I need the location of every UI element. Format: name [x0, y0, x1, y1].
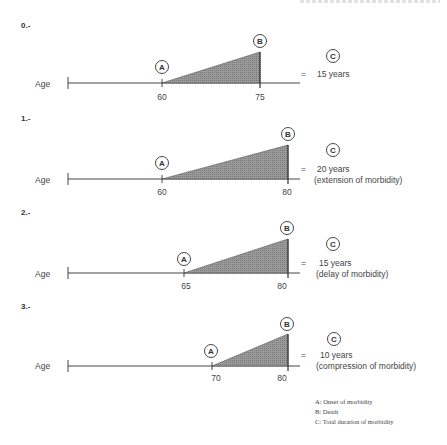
morbidity-triangle: [162, 145, 288, 179]
circle-c-badge: C: [327, 50, 340, 63]
onset-age-label: 70: [211, 373, 221, 383]
result-duration: 10 years: [320, 350, 353, 360]
result-description: (extension of morbidity): [314, 175, 403, 185]
onset-age-label: 60: [157, 187, 167, 197]
circle-b-badge: B: [281, 318, 294, 331]
svg-text:C: C: [330, 52, 336, 61]
svg-text:C: C: [330, 240, 336, 249]
svg-text:B: B: [257, 37, 263, 46]
section-heading: 2.-: [21, 208, 31, 217]
equals-sign: =: [301, 164, 306, 174]
legend: A: Onset of morbidity B: Death C: Total …: [315, 398, 394, 425]
svg-text:B: B: [284, 320, 290, 329]
svg-text:C: C: [331, 335, 337, 344]
circle-b-badge: B: [282, 128, 295, 141]
morbidity-diagram: 0.- Age 60 75 A B C = 15 years 1.- Age: [0, 0, 447, 445]
svg-text:A: A: [208, 347, 214, 356]
circle-b-badge: B: [281, 222, 294, 235]
section-heading: 0.-: [21, 21, 31, 30]
svg-text:A: A: [159, 63, 165, 72]
morbidity-triangle: [212, 334, 288, 366]
svg-text:A: A: [181, 255, 187, 264]
legend-item-c: C: Total duration of morbidity: [315, 418, 394, 425]
death-age-label: 80: [282, 187, 292, 197]
svg-text:A: A: [159, 159, 165, 168]
circle-c-badge: C: [328, 333, 341, 346]
scenario-1: 1.- Age 60 80 A B C = 20 years (extensio…: [21, 114, 403, 197]
death-age-label: 80: [277, 281, 287, 291]
age-axis-label: Age: [35, 175, 50, 185]
legend-item-a: A: Onset of morbidity: [315, 398, 373, 405]
age-axis-label: Age: [35, 269, 50, 279]
onset-age-label: 65: [181, 281, 191, 291]
result-duration: 15 years: [317, 69, 350, 79]
legend-item-b: B: Death: [315, 408, 339, 415]
circle-a-badge: A: [205, 345, 218, 358]
svg-text:B: B: [284, 224, 290, 233]
circle-a-badge: A: [178, 253, 191, 266]
result-duration: 20 years: [317, 164, 350, 174]
morbidity-triangle: [162, 52, 260, 83]
scenario-2: 2.- Age 65 80 A B C = 15 years (delay of…: [21, 208, 388, 291]
equals-sign: =: [301, 350, 306, 360]
circle-a-badge: A: [156, 61, 169, 74]
svg-text:B: B: [285, 130, 291, 139]
result-description: (compression of morbidity): [316, 361, 416, 371]
circle-b-badge: B: [254, 35, 267, 48]
circle-c-badge: C: [327, 144, 340, 157]
scenario-3: 3.- Age 70 80 A B C = 10 years (compress…: [21, 302, 416, 383]
scenario-0: 0.- Age 60 75 A B C = 15 years: [21, 21, 350, 102]
section-heading: 3.-: [21, 302, 31, 311]
result-duration: 15 years: [319, 258, 352, 268]
onset-age-label: 60: [157, 92, 167, 102]
morbidity-triangle: [184, 239, 288, 273]
age-axis-label: Age: [35, 361, 50, 371]
age-axis-label: Age: [35, 79, 50, 89]
equals-sign: =: [301, 69, 306, 79]
svg-text:C: C: [330, 146, 336, 155]
circle-c-badge: C: [327, 238, 340, 251]
circle-a-badge: A: [156, 157, 169, 170]
section-heading: 1.-: [21, 114, 31, 123]
death-age-label: 75: [255, 92, 265, 102]
death-age-label: 80: [277, 373, 287, 383]
equals-sign: =: [301, 258, 306, 268]
result-description: (delay of morbidity): [316, 269, 388, 279]
